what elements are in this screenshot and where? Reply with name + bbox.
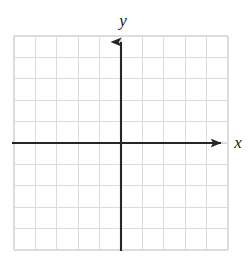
x-axis-label: x [231, 134, 245, 151]
coordinate-plane-canvas [0, 0, 248, 257]
coordinate-plane-figure: y x [0, 0, 248, 257]
y-axis-label: y [115, 12, 131, 29]
figure-background [0, 0, 248, 257]
